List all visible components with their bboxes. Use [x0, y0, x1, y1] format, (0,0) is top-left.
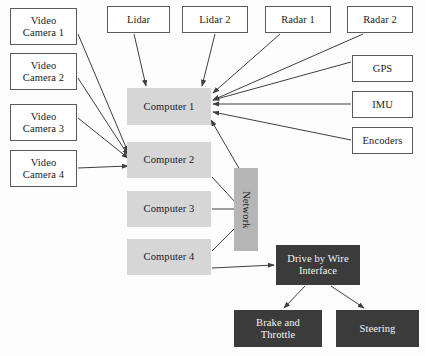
node-label-lidar-2: Lidar 2 — [199, 14, 230, 26]
node-label-brake-throttle: Brake and Throttle — [256, 317, 300, 341]
node-computer-1[interactable]: Computer 1 — [127, 88, 211, 125]
node-lidar[interactable]: Lidar — [107, 6, 170, 33]
node-steering[interactable]: Steering — [336, 310, 419, 347]
node-label-steering: Steering — [360, 323, 396, 335]
node-gps[interactable]: GPS — [352, 55, 413, 82]
node-imu[interactable]: IMU — [352, 91, 413, 118]
node-label-radar-2: Radar 2 — [363, 14, 397, 26]
node-label-network: Network — [240, 191, 252, 228]
edge-computer-4-to-drive-by-wire — [212, 265, 274, 268]
node-label-computer-2: Computer 2 — [144, 154, 195, 166]
node-label-lidar: Lidar — [127, 14, 150, 26]
node-label-computer-3: Computer 3 — [144, 203, 195, 215]
edge-video-camera-1-to-computer-2 — [78, 34, 128, 152]
node-label-computer-1: Computer 1 — [144, 101, 195, 113]
node-video-camera-3[interactable]: Video Camera 3 — [10, 104, 77, 141]
node-radar-1[interactable]: Radar 1 — [265, 6, 331, 33]
node-label-video-camera-2: Video Camera 2 — [23, 60, 64, 84]
node-lidar-2[interactable]: Lidar 2 — [182, 6, 248, 33]
node-computer-2[interactable]: Computer 2 — [127, 142, 211, 178]
edge-lidar-2-to-computer-1 — [202, 34, 215, 86]
node-drive-by-wire[interactable]: Drive by Wire Interface — [276, 245, 360, 285]
edge-drive-by-wire-to-brake-throttle — [284, 286, 305, 308]
edge-radar-2-to-computer-1 — [213, 34, 363, 100]
edge-computer-4-to-network — [212, 227, 236, 251]
node-video-camera-4[interactable]: Video Camera 4 — [10, 150, 77, 187]
node-label-video-camera-3: Video Camera 3 — [23, 111, 64, 135]
node-video-camera-1[interactable]: Video Camera 1 — [10, 8, 77, 45]
node-label-radar-1: Radar 1 — [281, 14, 315, 26]
node-network[interactable]: Network — [234, 168, 258, 251]
edge-gps-to-computer-1 — [213, 62, 351, 100]
edge-video-camera-4-to-computer-2 — [78, 166, 128, 168]
node-label-video-camera-1: Video Camera 1 — [23, 15, 64, 39]
edge-lidar-to-computer-1 — [134, 34, 146, 86]
edge-encoders-to-computer-1 — [213, 112, 351, 140]
node-computer-4[interactable]: Computer 4 — [127, 239, 211, 275]
node-brake-throttle[interactable]: Brake and Throttle — [234, 310, 322, 347]
node-label-encoders: Encoders — [363, 135, 403, 147]
node-computer-3[interactable]: Computer 3 — [127, 191, 211, 227]
node-video-camera-2[interactable]: Video Camera 2 — [10, 53, 77, 90]
node-label-imu: IMU — [372, 99, 393, 111]
edge-drive-by-wire-to-steering — [331, 286, 364, 308]
edge-video-camera-2-to-computer-2 — [78, 78, 128, 155]
edge-computer-2-to-network — [212, 177, 236, 203]
node-label-video-camera-4: Video Camera 4 — [23, 157, 64, 181]
node-radar-2[interactable]: Radar 2 — [347, 6, 413, 33]
node-label-drive-by-wire: Drive by Wire Interface — [287, 253, 348, 277]
node-label-gps: GPS — [373, 63, 393, 75]
node-encoders[interactable]: Encoders — [352, 127, 413, 154]
edge-video-camera-3-to-computer-2 — [78, 118, 128, 158]
system-architecture-diagram: Video Camera 1Video Camera 2Video Camera… — [0, 0, 425, 356]
edge-network-to-computer-1 — [211, 120, 240, 170]
edge-radar-1-to-computer-1 — [213, 34, 280, 93]
node-label-computer-4: Computer 4 — [144, 251, 195, 263]
